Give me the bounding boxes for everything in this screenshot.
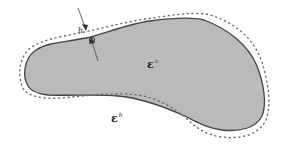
diagram-figure: h εa εb: [0, 0, 281, 147]
outer-epsilon-symbol: ε: [111, 112, 118, 125]
outer-region-label: εb: [111, 112, 123, 124]
thickness-symbol: h: [78, 26, 83, 35]
inner-epsilon-symbol: ε: [147, 58, 154, 71]
inner-region-label: εa: [147, 58, 158, 70]
thickness-label: h: [78, 27, 83, 35]
inner-superscript: a: [155, 57, 159, 64]
region-drawing: [0, 0, 281, 147]
inner-region: [25, 18, 265, 130]
outer-superscript: b: [119, 111, 123, 118]
